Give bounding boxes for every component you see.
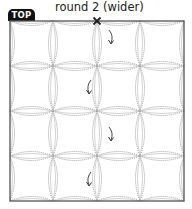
curved-arrow-icon xyxy=(87,80,92,94)
curved-arrow-icon xyxy=(87,172,92,186)
orange-peel-arcs xyxy=(10,21,184,201)
direction-arrows xyxy=(87,30,114,186)
curved-arrow-icon xyxy=(109,30,114,44)
curved-arrow-icon xyxy=(109,127,114,141)
quilt-grid-diagram xyxy=(0,0,192,209)
